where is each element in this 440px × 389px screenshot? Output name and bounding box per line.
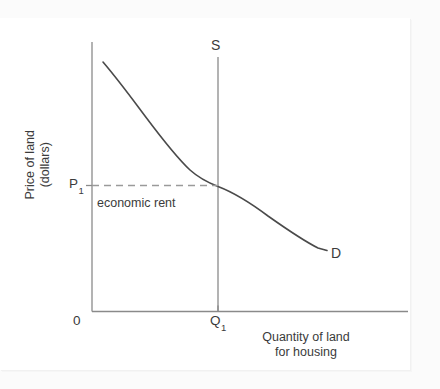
price-axis-value-subscript: 1 (79, 185, 84, 196)
price-axis-value-label: P1 (69, 176, 83, 194)
x-axis-title: Quantity of land for housing (246, 330, 366, 360)
demand-curve (103, 62, 327, 251)
x-axis-title-line2: for housing (246, 345, 366, 360)
price-axis-value-letter: P (69, 176, 78, 191)
y-axis-title: Price of land (dollars) (23, 105, 53, 225)
figure-root: S D P1 Q1 0 economic rent Price of land … (0, 0, 440, 389)
demand-curve-label: D (331, 245, 341, 262)
supply-curve-label: S (211, 37, 220, 54)
y-axis-title-line1: Price of land (23, 105, 38, 225)
y-axis-title-line2: (dollars) (38, 105, 53, 225)
origin-label: 0 (73, 313, 81, 329)
x-axis-title-line1: Quantity of land (246, 330, 366, 345)
economic-rent-annotation: economic rent (97, 196, 176, 211)
quantity-axis-value-subscript: 1 (221, 322, 226, 333)
quantity-axis-value-label: Q1 (210, 313, 226, 331)
quantity-axis-value-letter: Q (210, 313, 221, 328)
